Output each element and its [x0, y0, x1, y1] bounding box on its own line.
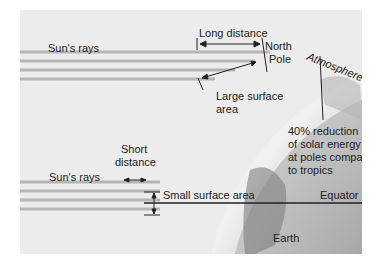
short-distance-line2: distance [115, 156, 156, 168]
earth-label: Earth [273, 232, 299, 244]
north-pole-label-line1: North [265, 40, 292, 52]
equator-label: Equator [320, 189, 359, 201]
reduction-line3: at poles compared [288, 151, 362, 163]
north-pole-label-line2: Pole [269, 53, 291, 65]
suns-rays-top-label: Sun's rays [48, 42, 99, 54]
large-surface-area-line2: area [216, 103, 238, 115]
long-distance-label: Long distance [199, 27, 268, 39]
small-surface-area-label: Small surface area [163, 189, 255, 201]
suns-rays-bottom-label: Sun's rays [49, 171, 100, 183]
reduction-line2: of solar energy [288, 138, 361, 150]
reduction-line4: to tropics [288, 164, 333, 176]
top-sun-rays [20, 52, 270, 79]
reduction-line1: 40% reduction [288, 125, 358, 137]
bottom-sun-rays [20, 182, 160, 209]
large-surface-area-line1: Large surface [216, 90, 283, 102]
short-distance-line1: Short [121, 143, 147, 155]
diagram-panel: Sun's rays Long distance North Pole Atmo… [20, 10, 362, 254]
